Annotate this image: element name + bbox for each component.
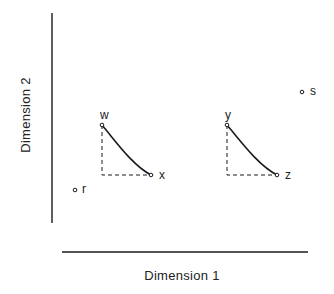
point-x-marker	[149, 173, 153, 177]
dashed-corner-wx	[102, 125, 151, 175]
y-axis-label: Dimension 2	[18, 77, 33, 153]
point-s-label: s	[310, 85, 316, 97]
point-y-marker	[225, 123, 229, 127]
point-y-label: y	[225, 109, 231, 121]
curve-y-to-z	[227, 125, 277, 175]
curves	[102, 125, 277, 175]
point-z-marker	[275, 173, 279, 177]
dashed-guides	[102, 125, 277, 175]
point-r-label: r	[82, 183, 86, 195]
curve-w-to-x	[102, 125, 151, 175]
point-w-marker	[100, 123, 104, 127]
point-x-label: x	[159, 169, 165, 181]
x-axis-label: Dimension 1	[144, 268, 220, 283]
diagram-canvas	[0, 0, 334, 294]
point-w-label: w	[100, 109, 109, 121]
point-r-marker	[73, 188, 77, 192]
dashed-corner-yz	[227, 125, 277, 175]
point-s-marker	[300, 90, 304, 94]
points	[73, 90, 304, 192]
mds-diagram: wxyzrs Dimension 1 Dimension 2	[0, 0, 334, 294]
point-z-label: z	[285, 169, 291, 181]
